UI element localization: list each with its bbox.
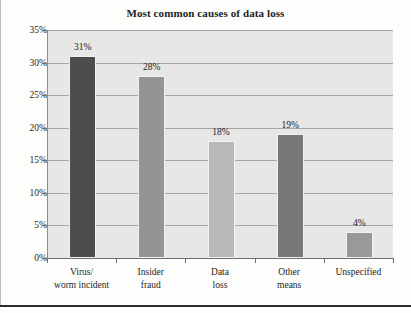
x-cat-label-line: loss <box>211 279 229 292</box>
x-cat-label-line: means <box>277 279 301 292</box>
x-cat-label-line: Virus/ <box>54 266 109 279</box>
x-tick-mark <box>47 259 48 263</box>
x-tick-mark <box>185 259 186 263</box>
bar-value-label: 28% <box>143 62 160 72</box>
x-cat-label-line: Insider <box>138 266 164 279</box>
y-tick-label: 20% <box>7 123 47 133</box>
x-category-label: Unspecified <box>335 266 381 279</box>
gridline <box>48 30 393 31</box>
x-tick-mark <box>393 259 394 263</box>
x-tick-mark <box>255 259 256 263</box>
chart-screenshot: Most common causes of data loss 0%5%10%1… <box>0 0 411 313</box>
bar <box>277 134 304 258</box>
x-cat-label-line: Unspecified <box>335 266 381 279</box>
x-cat-label-line: Data <box>211 266 229 279</box>
chart-title: Most common causes of data loss <box>0 7 411 19</box>
y-tick-label: 25% <box>7 90 47 100</box>
bar <box>346 232 373 258</box>
x-axis: Virus/worm incidentInsiderfraudDatalossO… <box>47 259 394 307</box>
y-tick-label: 35% <box>7 25 47 35</box>
y-tick-label: 0% <box>7 253 47 263</box>
gridline <box>48 63 393 64</box>
x-cat-label-line: Other <box>277 266 301 279</box>
x-category-label: Othermeans <box>277 266 301 292</box>
y-tick-label: 5% <box>7 220 47 230</box>
plot-inner: 31%28%18%19%4% <box>48 30 393 258</box>
y-axis: 0%5%10%15%20%25%30%35% <box>0 30 47 259</box>
bar-value-label: 19% <box>281 120 298 130</box>
plot-area: 31%28%18%19%4% <box>47 30 393 258</box>
x-cat-label-line: worm incident <box>54 279 109 292</box>
bar <box>138 76 165 258</box>
x-tick-mark <box>324 259 325 263</box>
bar <box>208 141 235 258</box>
x-cat-label-line: fraud <box>138 279 164 292</box>
y-tick-label: 15% <box>7 155 47 165</box>
bar-value-label: 18% <box>212 127 229 137</box>
x-tick-mark <box>116 259 117 263</box>
gridline <box>48 95 393 96</box>
y-tick-label: 10% <box>7 188 47 198</box>
y-tick-label: 30% <box>7 58 47 68</box>
bar-value-label: 4% <box>353 218 366 228</box>
x-category-label: Virus/worm incident <box>54 266 109 292</box>
bar-value-label: 31% <box>74 42 91 52</box>
bar <box>69 56 96 258</box>
x-category-label: Insiderfraud <box>138 266 164 292</box>
x-category-label: Dataloss <box>211 266 229 292</box>
